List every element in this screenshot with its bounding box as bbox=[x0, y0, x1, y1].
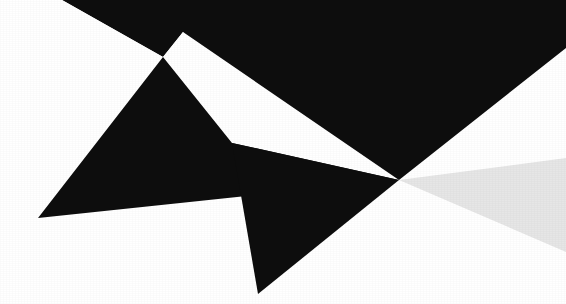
abstract-composition-artboard bbox=[0, 0, 566, 304]
image-canvas bbox=[0, 0, 566, 304]
